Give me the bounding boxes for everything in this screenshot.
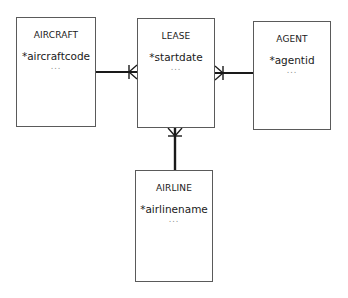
entity-key-attribute: *aircraftcode: [17, 50, 95, 62]
entity-more-attributes: ...: [138, 63, 214, 72]
entity-aircraft[interactable]: AIRCRAFT *aircraftcode ...: [16, 17, 96, 127]
entity-key-attribute: *airlinename: [136, 203, 212, 215]
relationship-agent-lease: [215, 66, 253, 80]
entity-title: LEASE: [138, 31, 214, 41]
entity-key-attribute: *agentid: [254, 54, 330, 66]
relationship-aircraft-lease: [96, 65, 137, 79]
entity-more-attributes: ...: [254, 66, 330, 75]
entity-airline[interactable]: AIRLINE *airlinename ...: [135, 170, 213, 282]
entity-title: AGENT: [254, 34, 330, 44]
relationship-airline-lease: [168, 128, 182, 170]
entity-key-attribute: *startdate: [138, 51, 214, 63]
entity-more-attributes: ...: [17, 62, 95, 71]
entity-more-attributes: ...: [136, 215, 212, 224]
entity-lease[interactable]: LEASE *startdate ...: [137, 18, 215, 128]
entity-title: AIRCRAFT: [17, 30, 95, 40]
entity-title: AIRLINE: [136, 183, 212, 193]
entity-agent[interactable]: AGENT *agentid ...: [253, 21, 331, 130]
